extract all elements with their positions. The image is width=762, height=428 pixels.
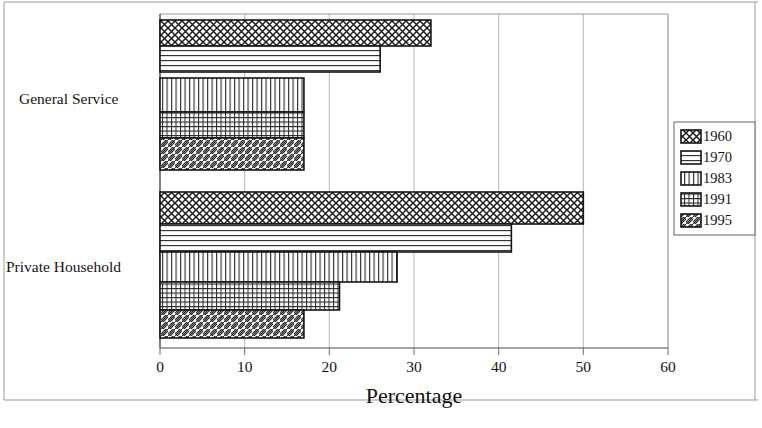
bar-group-private-household bbox=[160, 192, 583, 338]
legend-swatch-1970 bbox=[681, 151, 701, 164]
category-label-general-service: General Service bbox=[19, 90, 119, 107]
x-tick-marks bbox=[160, 348, 668, 355]
legend-swatch-1960 bbox=[681, 130, 701, 143]
bar-private-household-1995 bbox=[160, 310, 304, 338]
bar-general-service-1983 bbox=[160, 78, 304, 112]
chart-canvas: General Service Private Household 0 10 2… bbox=[0, 0, 762, 428]
bar-private-household-1960 bbox=[160, 192, 583, 224]
bar-chart: General Service Private Household 0 10 2… bbox=[0, 0, 762, 428]
legend-swatch-1995 bbox=[681, 214, 701, 227]
x-tick-label-10: 10 bbox=[237, 358, 253, 375]
legend-label-1970: 1970 bbox=[703, 149, 732, 165]
legend-swatch-1983 bbox=[681, 172, 701, 185]
bar-general-service-1991 bbox=[160, 112, 304, 138]
bar-private-household-1991 bbox=[160, 282, 339, 310]
legend-label-1983: 1983 bbox=[703, 170, 732, 186]
bar-general-service-1970 bbox=[160, 46, 380, 72]
x-tick-label-30: 30 bbox=[406, 358, 422, 375]
bar-general-service-1960 bbox=[160, 20, 431, 46]
x-tick-label-60: 60 bbox=[660, 358, 676, 375]
legend-swatch-1991 bbox=[681, 193, 701, 206]
category-label-private-household: Private Household bbox=[6, 258, 121, 275]
legend: 1960 1970 1983 1991 1995 bbox=[674, 122, 755, 235]
bar-group-general-service bbox=[160, 20, 431, 170]
x-tick-label-20: 20 bbox=[322, 358, 338, 375]
legend-label-1995: 1995 bbox=[703, 212, 732, 228]
x-tick-label-0: 0 bbox=[156, 358, 164, 375]
legend-label-1991: 1991 bbox=[703, 191, 732, 207]
x-axis-title: Percentage bbox=[366, 383, 463, 408]
x-tick-label-50: 50 bbox=[576, 358, 592, 375]
bar-private-household-1983 bbox=[160, 252, 397, 282]
legend-label-1960: 1960 bbox=[703, 128, 732, 144]
x-tick-label-40: 40 bbox=[491, 358, 507, 375]
bar-private-household-1970 bbox=[160, 224, 511, 252]
bar-general-service-1995 bbox=[160, 138, 304, 170]
